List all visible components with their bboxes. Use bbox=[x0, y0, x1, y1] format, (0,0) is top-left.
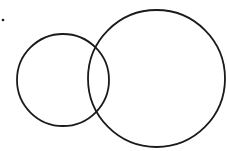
point-dot bbox=[2, 19, 5, 22]
diagram-canvas bbox=[0, 0, 227, 151]
diagram-svg bbox=[0, 0, 227, 151]
